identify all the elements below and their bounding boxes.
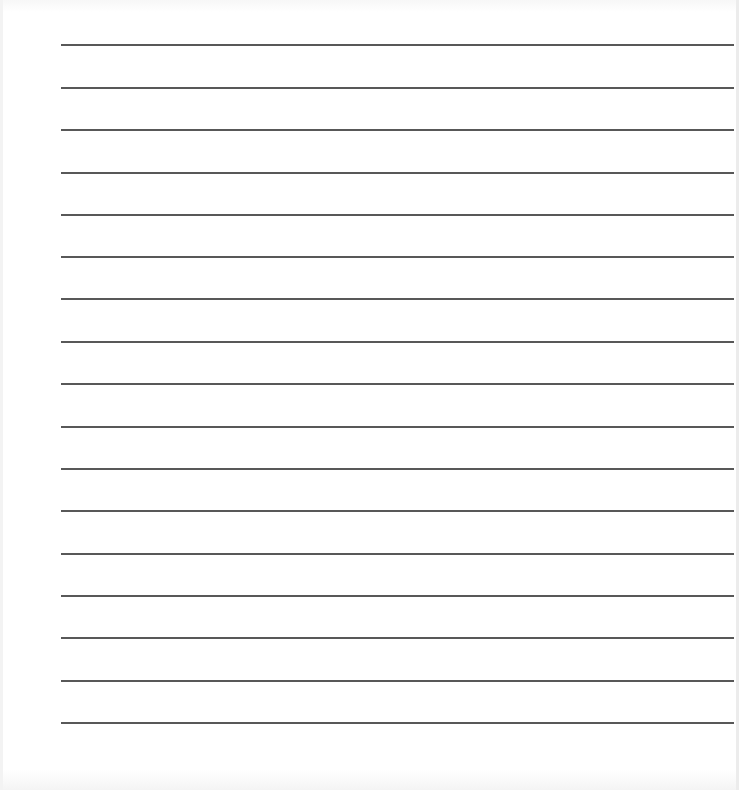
writing-line [61, 510, 734, 512]
writing-line [61, 383, 734, 385]
writing-line [61, 426, 734, 428]
writing-line [61, 256, 734, 258]
writing-line [61, 214, 734, 216]
writing-line [61, 468, 734, 470]
writing-line [61, 44, 734, 46]
writing-line [61, 637, 734, 639]
writing-line [61, 298, 734, 300]
writing-line [61, 595, 734, 597]
writing-line [61, 341, 734, 343]
ruled-page [0, 0, 739, 790]
writing-line [61, 87, 734, 89]
writing-line [61, 129, 734, 131]
writing-line [61, 722, 734, 724]
page-edge-left [0, 0, 3, 790]
writing-line [61, 680, 734, 682]
writing-line [61, 553, 734, 555]
writing-line [61, 172, 734, 174]
